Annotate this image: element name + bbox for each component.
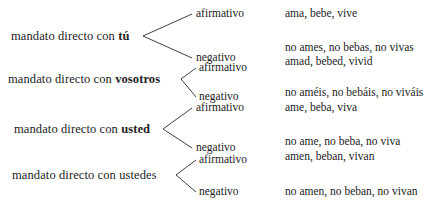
example-vosotros-afirmativo: amad, bebed, vivid xyxy=(285,55,373,67)
group-label-tu: mandato directo con tú xyxy=(11,29,130,44)
connector-vosotros-afirmativo xyxy=(181,68,196,79)
example-tu-afirmativo: ama, bebe, vive xyxy=(285,7,357,19)
branch-label-ustedes-afirmativo: afirmativo xyxy=(199,153,247,165)
group-label-prefix-vosotros: mandato directo con xyxy=(8,72,115,86)
group-label-prefix-ustedes: mandato directo con xyxy=(12,168,119,182)
connector-usted-afirmativo xyxy=(163,108,192,129)
example-usted-afirmativo: ame, beba, viva xyxy=(285,101,357,113)
mandato-directo-diagram: mandato directo con tú afirmativo ama, b… xyxy=(0,0,443,207)
example-ustedes-afirmativo: amen, beban, vivan xyxy=(285,150,374,162)
branch-label-usted-afirmativo: afirmativo xyxy=(196,101,244,113)
group-keyword-ustedes: ustedes xyxy=(119,168,157,182)
group-label-vosotros: mandato directo con vosotros xyxy=(8,72,160,87)
group-label-usted: mandato directo con usted xyxy=(14,122,150,137)
connector-vosotros-negativo xyxy=(181,79,196,97)
branch-label-ustedes-negativo: negativo xyxy=(199,185,239,197)
branch-label-tu-afirmativo: afirmativo xyxy=(196,7,244,19)
connector-usted-negativo xyxy=(163,129,192,148)
group-label-prefix-usted: mandato directo con xyxy=(14,122,121,136)
connector-tu-afirmativo xyxy=(143,14,192,36)
example-tu-negativo: no ames, no bebas, no vivas xyxy=(285,41,414,53)
branch-label-usted-negativo: negativo xyxy=(196,141,236,153)
example-ustedes-negativo: no amen, no beban, no vivan xyxy=(285,185,418,197)
group-keyword-tu: tú xyxy=(118,29,129,43)
connector-ustedes-afirmativo xyxy=(176,160,196,175)
connector-ustedes-negativo xyxy=(176,175,196,192)
group-label-ustedes: mandato directo con ustedes xyxy=(12,168,157,183)
group-keyword-usted: usted xyxy=(121,122,150,136)
group-keyword-vosotros: vosotros xyxy=(115,72,160,86)
branch-label-vosotros-afirmativo: afirmativo xyxy=(199,61,247,73)
example-vosotros-negativo: no améis, no bebáis, no viváis xyxy=(285,86,423,98)
example-usted-negativo: no ame, no beba, no viva xyxy=(285,135,400,147)
group-label-prefix-tu: mandato directo con xyxy=(11,29,118,43)
connector-tu-negativo xyxy=(143,36,192,58)
